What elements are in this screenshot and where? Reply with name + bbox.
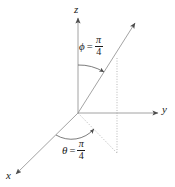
phi-equals-sign: = <box>87 41 93 52</box>
x-axis-label: x <box>6 170 11 181</box>
theta-denominator: 4 <box>78 151 85 161</box>
phi-angle-label: ϕ = π 4 <box>79 35 103 57</box>
theta-equals-sign: = <box>69 145 75 156</box>
phi-angle-arc <box>78 65 104 72</box>
phi-symbol: ϕ <box>79 40 85 52</box>
spherical-coordinates-figure <box>0 0 175 187</box>
z-axis-label: z <box>74 4 78 15</box>
phi-fraction: π 4 <box>95 35 103 57</box>
theta-numerator: π <box>78 139 85 149</box>
phi-denominator: 4 <box>95 47 102 57</box>
theta-angle-arc <box>56 129 94 139</box>
theta-symbol: θ <box>62 144 67 156</box>
theta-angle-label: θ = π 4 <box>62 139 85 161</box>
phi-numerator: π <box>95 35 102 45</box>
theta-fraction: π 4 <box>77 139 85 161</box>
y-axis-label: y <box>162 104 167 115</box>
